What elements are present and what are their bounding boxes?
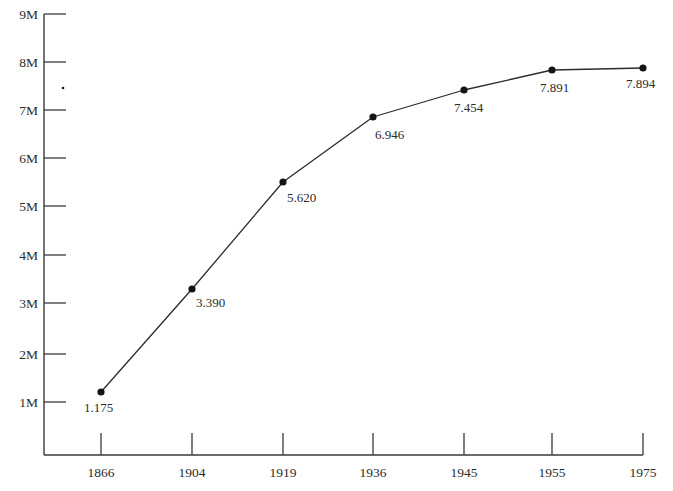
y-tick-label-8m: 8M bbox=[19, 55, 38, 70]
chart-canvas: 9M 8M 7M 6M 5M 4M 3M 2M 1M 1866 1904 191… bbox=[0, 0, 673, 491]
data-label-1975: 7.894 bbox=[626, 76, 656, 91]
x-tick-label-1945: 1945 bbox=[451, 465, 478, 480]
data-label-1945: 7.454 bbox=[454, 100, 484, 115]
data-point-labels: 1.175 3.390 5.620 6.946 7.454 7.891 7.89… bbox=[84, 76, 656, 415]
x-tick-label-1936: 1936 bbox=[360, 465, 387, 480]
data-point-1866[interactable] bbox=[97, 388, 104, 395]
y-tick-label-6m: 6M bbox=[19, 151, 38, 166]
data-point-1936[interactable] bbox=[369, 113, 376, 120]
x-axis-tick-labels: 1866 1904 1919 1936 1945 1955 1975 bbox=[88, 465, 657, 480]
y-tick-label-2m: 2M bbox=[19, 347, 38, 362]
y-axis-ticks bbox=[44, 14, 66, 402]
data-label-1904: 3.390 bbox=[196, 295, 225, 310]
data-point-1975[interactable] bbox=[639, 64, 646, 71]
x-tick-label-1955: 1955 bbox=[539, 465, 566, 480]
y-tick-label-7m: 7M bbox=[19, 103, 38, 118]
data-label-1936: 6.946 bbox=[375, 127, 405, 142]
data-point-1945[interactable] bbox=[460, 86, 467, 93]
x-axis-ticks bbox=[101, 433, 643, 455]
data-point-1955[interactable] bbox=[548, 66, 555, 73]
y-tick-label-4m: 4M bbox=[19, 248, 38, 263]
x-tick-label-1904: 1904 bbox=[179, 465, 206, 480]
line-chart: 9M 8M 7M 6M 5M 4M 3M 2M 1M 1866 1904 191… bbox=[0, 0, 673, 491]
data-label-1919: 5.620 bbox=[287, 190, 316, 205]
x-tick-label-1866: 1866 bbox=[88, 465, 115, 480]
data-label-1866: 1.175 bbox=[84, 400, 113, 415]
y-tick-label-3m: 3M bbox=[19, 296, 38, 311]
data-point-markers bbox=[97, 64, 646, 395]
data-point-1904[interactable] bbox=[188, 285, 195, 292]
y-tick-label-5m: 5M bbox=[19, 199, 38, 214]
x-tick-label-1919: 1919 bbox=[270, 465, 297, 480]
x-tick-label-1975: 1975 bbox=[630, 465, 657, 480]
data-label-1955: 7.891 bbox=[540, 80, 569, 95]
y-tick-label-1m: 1M bbox=[19, 395, 38, 410]
y-tick-label-9m: 9M bbox=[19, 7, 38, 22]
stray-speck-mark bbox=[62, 87, 65, 90]
y-axis-tick-labels: 9M 8M 7M 6M 5M 4M 3M 2M 1M bbox=[19, 7, 38, 410]
data-point-1919[interactable] bbox=[279, 178, 286, 185]
